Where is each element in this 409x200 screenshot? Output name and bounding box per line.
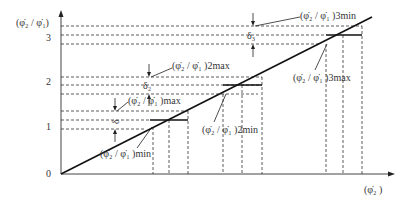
delta-2-label: δ₂ <box>143 80 151 91</box>
y-axis-arrow-icon <box>59 10 64 17</box>
x-axis-arrow-icon <box>388 172 395 177</box>
y-tick-3: 3 <box>46 32 51 43</box>
delta-1-marker: δ <box>110 98 121 142</box>
x-axis-label: (φ̇₂ ) <box>364 184 382 196</box>
y-tick-0: 0 <box>46 168 51 179</box>
delta-3-label: δ₃ <box>247 30 255 41</box>
delta-1-label: δ <box>110 119 121 124</box>
label-min-3: (φ̇₂ / φ̇₁ )3min <box>300 10 356 22</box>
label-min-1: (φ̇₂ / φ̇₁ )min <box>100 148 151 160</box>
label-min-2: (φ̇₂ / φ̇₁ )2min <box>202 124 258 136</box>
transmission-ratio-diagram: δ δ₂ δ₃ (φ̇₂ / φ̇₁) 0 1 2 3 (φ̇₂ ) (φ̇₂ … <box>0 0 409 200</box>
y-axis-label: (φ̇₂ / φ̇₁) <box>16 17 49 29</box>
label-max-1: (φ̇₂ / φ̇₁ )max <box>128 95 181 107</box>
y-tick-1: 1 <box>46 121 51 132</box>
label-max-2: (φ̇₂ / φ̇₁ )2max <box>172 60 230 72</box>
delta-3-marker: δ₃ <box>247 13 255 57</box>
vertical-dashed-lines <box>153 26 362 174</box>
y-tick-2: 2 <box>46 76 51 87</box>
label-max-3: (φ̇₂ / φ̇₁ )3max <box>293 72 351 84</box>
